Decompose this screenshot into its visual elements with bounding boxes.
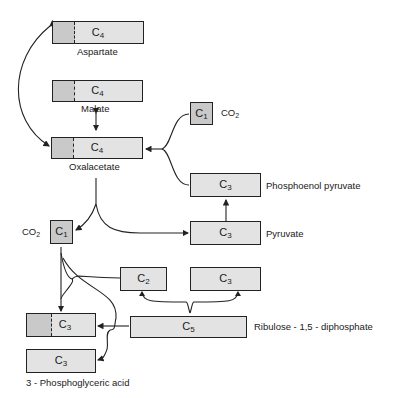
pyruvate-box: C3 [190,221,261,245]
pga-box-2: C3 [26,349,96,373]
shaded-carboxyl-segment [27,314,52,336]
connector-arrows [0,0,396,398]
shaded-carboxyl-segment [53,22,75,43]
aspartate-box: C4 [52,21,144,44]
co2-box-top: C1 [190,102,213,125]
oxalacetate-box: C4 [51,137,143,159]
c4-pathway-diagram: C4 Aspartate C4 Malate C4 Oxalacetate C1… [0,0,396,398]
pyruvate-label: Pyruvate [266,228,304,239]
malate-label: Malate [81,103,110,114]
pga-box-1: C3 [26,313,96,337]
aspartate-label: Aspartate [77,46,118,57]
co2-label-top: CO2 [221,107,239,119]
co2-label-left: CO2 [22,226,40,238]
rubp-label: Ribulose - 1,5 - diphosphate [254,321,373,332]
pep-label: Phosphoenol pyruvate [266,180,361,191]
malate-box: C4 [52,80,143,102]
shaded-carboxyl-segment [52,138,74,158]
pep-box: C3 [190,173,261,197]
pga-label: 3 - Phosphoglyceric acid [26,377,130,388]
c3-box-right: C3 [190,267,261,291]
rubp-box: C5 [130,316,247,338]
shaded-carboxyl-segment [53,81,75,101]
co2-box-left: C1 [50,220,73,244]
c2-box: C2 [120,267,167,291]
oxalacetate-label: Oxalacetate [69,161,120,172]
